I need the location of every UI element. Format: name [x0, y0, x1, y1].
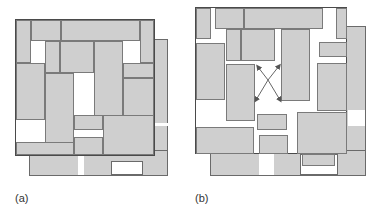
move-arrows-icon [0, 0, 378, 216]
figure: (a) [0, 0, 378, 216]
panel-b-label: (b) [195, 192, 208, 204]
